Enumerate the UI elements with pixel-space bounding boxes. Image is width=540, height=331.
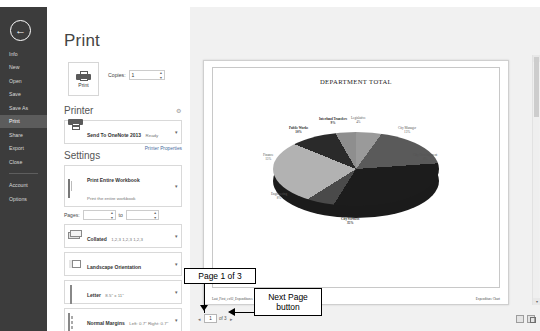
paper-icon xyxy=(68,286,83,299)
printer-heading: Printer xyxy=(64,105,182,116)
margins-desc: Left: 0.7" Right: 0.7" xyxy=(129,321,168,326)
back-button[interactable]: ← xyxy=(10,20,31,41)
sidebar-item-account[interactable]: Account xyxy=(0,179,47,193)
chevron-down-icon[interactable]: ▾ xyxy=(175,234,179,239)
sidebar-item-info[interactable]: Info xyxy=(0,47,47,61)
copies-stepper[interactable]: 1 ▲▼ xyxy=(129,70,165,80)
zoom-controls xyxy=(516,315,535,323)
chevron-down-icon[interactable]: ▾ xyxy=(175,318,179,323)
collate-icon xyxy=(68,230,83,243)
excel-print-backstage: Last_First_ex02_Expenditures - Excel ? –… xyxy=(0,0,540,331)
copies-value: 1 xyxy=(132,72,135,78)
sidebar-item-options[interactable]: Options xyxy=(0,192,47,206)
printer-section: Printer ⚙ Send To OneNote 2013 Ready ▾ P… xyxy=(64,105,182,151)
printer-status: Ready xyxy=(146,133,159,138)
pages-to-input[interactable]: ▲▼ xyxy=(126,210,159,220)
pages-row: Pages: ▲▼ to ▲▼ xyxy=(64,210,182,220)
chart-area: DEPARTMENT TOTAL Legislative 4% City Man… xyxy=(212,67,500,288)
pie-label-legislative: Legislative 4% xyxy=(351,116,366,124)
annotation-page-1-of-3: Page 1 of 3 xyxy=(184,268,256,284)
workbook-icon xyxy=(68,180,83,193)
chevron-down-icon[interactable]: ▾ xyxy=(175,290,179,295)
print-button[interactable]: Print xyxy=(68,62,99,96)
chevron-down-icon[interactable]: ▾ xyxy=(175,130,179,135)
copies-row: Copies: 1 ▲▼ xyxy=(108,70,165,80)
pie-label-city-services: City Services 35% xyxy=(341,217,359,225)
preview-scrollbar[interactable]: ▴ ▾ xyxy=(532,55,539,305)
chevron-down-icon[interactable]: ▾ xyxy=(175,262,179,267)
annotation-next-page-button: Next Page button xyxy=(254,288,322,316)
pages-from-input[interactable]: ▲▼ xyxy=(83,210,116,220)
copies-label: Copies: xyxy=(108,72,126,78)
pie-label-city-development: City Development 6% xyxy=(413,153,437,161)
annotation-arrow-2 xyxy=(228,308,235,316)
margins-icon xyxy=(68,314,83,327)
sidebar-item-save[interactable]: Save xyxy=(0,88,47,102)
footer-left-text: Last_First_ex02_Expenditures xyxy=(212,297,252,301)
print-range-select[interactable]: Print Entire Workbook Print the entire w… xyxy=(64,165,182,207)
zoom-to-page-icon[interactable] xyxy=(516,315,524,323)
sidebar-divider xyxy=(9,173,38,174)
copies-spinner-icon[interactable]: ▲▼ xyxy=(159,71,162,81)
chevron-down-icon[interactable]: ▾ xyxy=(175,184,179,189)
footer-right-text: Expenditure Chart xyxy=(476,297,500,301)
print-settings-panel: Print Print Copies: 1 ▲▼ Printer ⚙ xyxy=(47,7,190,331)
backstage-menu: Info New Open Save Save As Print Share E… xyxy=(0,47,47,206)
chart-title: DEPARTMENT TOTAL xyxy=(213,78,499,85)
pie-label-engineering: Engineering 8% xyxy=(271,192,287,200)
collation-select[interactable]: Collated 1,2,3 1,2,3 1,2,3 ▾ xyxy=(64,224,182,248)
print-range-desc: Print the entire workbook xyxy=(87,196,136,201)
orientation-select[interactable]: Landscape Orientation ▾ xyxy=(64,252,182,276)
pie-chart: Legislative 4% City Manager 13% City Dev… xyxy=(265,110,447,228)
sidebar-item-open[interactable]: Open xyxy=(0,74,47,88)
landscape-icon xyxy=(68,258,83,271)
pages-to-label: to xyxy=(119,212,123,218)
print-range-label: Print Entire Workbook xyxy=(87,177,140,183)
sidebar-item-save-as[interactable]: Save As xyxy=(0,101,47,115)
sidebar-item-share[interactable]: Share xyxy=(0,128,47,142)
preview-status-bar: ◂ 1 of 3 ▸ xyxy=(190,312,540,325)
annotation-leader-line-2 xyxy=(235,312,255,313)
paper-size-desc: 8.5" x 11" xyxy=(105,293,123,298)
sidebar-item-close[interactable]: Close xyxy=(0,155,47,169)
backstage-rail: ← Info New Open Save Save As Print Share… xyxy=(0,7,47,331)
printer-name: Send To OneNote 2013 xyxy=(87,132,141,138)
printer-device-icon xyxy=(68,126,83,139)
previous-page-button[interactable]: ◂ xyxy=(196,316,202,322)
pie-label-city-manager: City Manager 13% xyxy=(398,126,416,134)
pie-label-interfund-transfers: Interfund Transfers 9% xyxy=(319,117,347,125)
pie-3d-top xyxy=(273,132,439,206)
paper-size-label: Letter xyxy=(87,292,101,298)
pages-to-spinner-icon[interactable]: ▲▼ xyxy=(153,211,156,221)
sidebar-item-print[interactable]: Print xyxy=(0,115,47,129)
margins-select[interactable]: Normal Margins Left: 0.7" Right: 0.7" ▾ xyxy=(64,308,182,331)
pie-label-finance: Finance 15% xyxy=(263,153,273,161)
pages-from-spinner-icon[interactable]: ▲▼ xyxy=(110,211,113,221)
fit-to-page-icon[interactable] xyxy=(527,315,535,323)
settings-heading: Settings xyxy=(64,150,182,161)
next-page-button[interactable]: ▸ xyxy=(229,316,235,322)
page-count-label: of 3 xyxy=(219,316,227,321)
print-button-label: Print xyxy=(78,82,88,88)
sidebar-item-export[interactable]: Export xyxy=(0,142,47,156)
gear-icon[interactable]: ⚙ xyxy=(176,108,182,114)
annotation-arrow-1 xyxy=(200,305,208,311)
pages-label: Pages: xyxy=(64,212,80,218)
printer-icon xyxy=(76,71,91,81)
page-number-input[interactable]: 1 xyxy=(204,314,217,323)
title-bar-accent xyxy=(0,0,540,7)
pie-label-public-works: Public Works 10% xyxy=(289,126,308,134)
scroll-down-icon[interactable]: ▾ xyxy=(533,298,540,305)
orientation-label: Landscape Orientation xyxy=(87,264,141,270)
scrollbar-thumb[interactable] xyxy=(534,57,539,117)
margins-label: Normal Margins xyxy=(87,320,125,326)
sidebar-item-new[interactable]: New xyxy=(0,61,47,75)
paper-size-select[interactable]: Letter 8.5" x 11" ▾ xyxy=(64,280,182,304)
page-title: Print xyxy=(64,31,100,51)
collation-label: Collated xyxy=(87,236,107,242)
settings-section: Settings Print Entire Workbook Print the… xyxy=(64,150,182,331)
collation-desc: 1,2,3 1,2,3 1,2,3 xyxy=(111,237,143,242)
printer-select[interactable]: Send To OneNote 2013 Ready ▾ xyxy=(64,120,182,144)
